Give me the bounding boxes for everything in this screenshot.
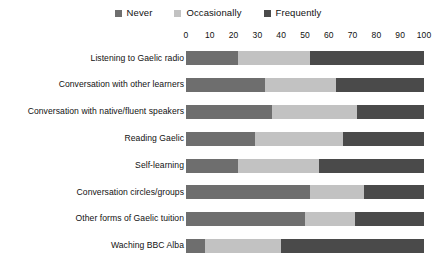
- bar-row: Reading Gaelic: [0, 125, 436, 152]
- legend-label: Never: [127, 8, 153, 18]
- axis-tick-label: 70: [348, 30, 358, 40]
- bar-row: Waching BBC Alba: [0, 233, 436, 260]
- bar-row: Self-learning: [0, 152, 436, 179]
- axis-tick-label: 80: [372, 30, 382, 40]
- bar-row: Conversation circles/groups: [0, 179, 436, 206]
- axis-tick-label: 30: [253, 30, 263, 40]
- square-swatch-icon: [264, 10, 271, 17]
- bar-row: Listening to Gaelic radio: [0, 45, 436, 72]
- bar-segment: [186, 78, 265, 92]
- bar-row: Conversation with other learners: [0, 72, 436, 99]
- bar-segment: [186, 51, 238, 65]
- legend-label: Occasionally: [186, 8, 241, 18]
- stacked-bar: [186, 159, 424, 173]
- category-label: Waching BBC Alba: [4, 241, 184, 250]
- bar-segment: [357, 105, 424, 119]
- axis-tick-label: 60: [324, 30, 334, 40]
- stacked-bar: [186, 51, 424, 65]
- axis-tick-label: 90: [395, 30, 405, 40]
- bar-segment: [355, 212, 424, 226]
- bar-segment: [310, 185, 365, 199]
- square-swatch-icon: [115, 10, 122, 17]
- category-label: Conversation with native/fluent speakers: [4, 107, 184, 116]
- category-label: Reading Gaelic: [4, 134, 184, 143]
- bar-segment: [238, 159, 319, 173]
- bar-segment: [186, 239, 205, 253]
- bar-segment: [186, 185, 310, 199]
- legend-item-frequently: Frequently: [264, 8, 322, 18]
- axis-tick-label: 0: [184, 30, 189, 40]
- bar-segment: [305, 212, 355, 226]
- bar-segment: [265, 78, 336, 92]
- axis-tick-label: 40: [276, 30, 286, 40]
- bar-segment: [186, 159, 238, 173]
- stacked-bar: [186, 105, 424, 119]
- axis-tick-label: 100: [417, 30, 431, 40]
- bar-segment: [255, 132, 343, 146]
- x-axis: 0 10 20 30 40 50 60 70 80 90 100: [186, 30, 424, 42]
- bar-segment: [205, 239, 281, 253]
- stacked-bar: [186, 185, 424, 199]
- bar-segment: [364, 185, 424, 199]
- square-swatch-icon: [174, 10, 181, 17]
- legend-item-never: Never: [115, 8, 153, 18]
- legend-item-occasionally: Occasionally: [174, 8, 241, 18]
- bar-row: Other forms of Gaelic tuition: [0, 206, 436, 233]
- axis-tick-label: 20: [229, 30, 239, 40]
- bar-row: Conversation with native/fluent speakers: [0, 99, 436, 126]
- category-label: Other forms of Gaelic tuition: [4, 214, 184, 223]
- bar-segment: [281, 239, 424, 253]
- stacked-bar: [186, 132, 424, 146]
- category-label: Conversation with other learners: [4, 80, 184, 89]
- plot-area: Listening to Gaelic radioConversation wi…: [0, 45, 436, 259]
- bar-segment: [336, 78, 424, 92]
- stacked-bar: [186, 78, 424, 92]
- bar-segment: [186, 132, 255, 146]
- category-label: Self-learning: [4, 161, 184, 170]
- bar-segment: [238, 51, 309, 65]
- axis-tick-label: 50: [300, 30, 310, 40]
- bar-segment: [186, 105, 272, 119]
- chart-legend: Never Occasionally Frequently: [0, 6, 436, 20]
- legend-label: Frequently: [276, 8, 322, 18]
- category-label: Conversation circles/groups: [4, 188, 184, 197]
- bar-segment: [343, 132, 424, 146]
- stacked-bar: [186, 239, 424, 253]
- bar-segment: [319, 159, 424, 173]
- stacked-bar-chart: Never Occasionally Frequently 0 10 20 30…: [0, 0, 436, 269]
- category-label: Listening to Gaelic radio: [4, 54, 184, 63]
- stacked-bar: [186, 212, 424, 226]
- bar-segment: [310, 51, 424, 65]
- axis-tick-label: 10: [205, 30, 215, 40]
- bar-segment: [186, 212, 305, 226]
- bar-segment: [272, 105, 358, 119]
